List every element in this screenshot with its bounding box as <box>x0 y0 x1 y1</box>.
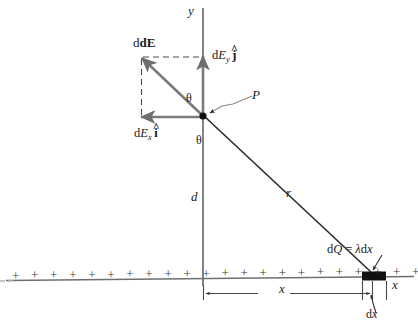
dE-resultant-label: ddE <box>133 36 155 49</box>
distance-d-label: d <box>191 190 198 203</box>
dx-x: x <box>372 307 377 321</box>
plus-sign: + <box>107 268 114 281</box>
plus-sign: + <box>126 267 133 280</box>
plus-sign: + <box>374 265 381 278</box>
hat-mark: ^ <box>231 44 238 56</box>
plus-sign: + <box>183 267 190 280</box>
plus-sign: + <box>202 267 209 280</box>
point-P-leader <box>210 96 252 113</box>
i-hat-icon: ^i <box>154 126 157 140</box>
dQ-equals: = <box>345 242 352 256</box>
plus-sign: + <box>31 268 38 281</box>
dEy-sub: y <box>226 54 230 64</box>
theta-upper-label: θ <box>186 92 192 104</box>
dEy-E: E <box>218 48 226 62</box>
j-hat-icon: ^j <box>232 48 236 62</box>
plus-sign: + <box>317 265 324 278</box>
charged-line <box>6 277 414 281</box>
electric-field-line-charge-diagram: y x P θ θ d r x dx ddE dEy^j dEx^i dQ=λd… <box>0 0 418 329</box>
dE-y-component-label: dEy^j <box>212 48 237 63</box>
plus-sign: + <box>298 266 305 279</box>
charge-element-label: dQ=λdx <box>327 243 373 256</box>
plus-sign: + <box>164 267 171 280</box>
distance-x-label: x <box>279 282 285 295</box>
distance-r-label: r <box>286 186 291 199</box>
dEx-sub: x <box>148 132 152 142</box>
plus-sign: + <box>279 266 286 279</box>
plus-sign: + <box>241 266 248 279</box>
plus-sign: + <box>393 265 400 278</box>
theta-lower-label: θ <box>196 134 202 146</box>
plus-sign: + <box>260 266 267 279</box>
plus-sign: + <box>336 265 343 278</box>
plus-sign: + <box>12 269 19 282</box>
plus-sign: + <box>412 265 418 278</box>
plus-sign: + <box>50 268 57 281</box>
y-axis-label: y <box>188 4 194 17</box>
dE-resultant-vector <box>142 58 202 115</box>
hat-mark: ^ <box>153 122 160 134</box>
plus-sign: + <box>222 266 229 279</box>
dQ-dx-x: x <box>367 242 373 256</box>
plus-sign: + <box>355 265 362 278</box>
plus-sign: + <box>88 268 95 281</box>
dE-E: dE <box>140 35 156 50</box>
dQ-Q: Q <box>333 242 342 256</box>
plus-sign: + <box>69 268 76 281</box>
dE-x-component-label: dEx^i <box>134 126 158 141</box>
point-P-label: P <box>252 88 260 101</box>
point-P-dot <box>199 112 206 119</box>
dx-label: dx <box>366 308 377 320</box>
x-axis-label: x <box>392 278 398 291</box>
dEx-E: E <box>140 126 148 140</box>
plus-sign: + <box>145 267 152 280</box>
